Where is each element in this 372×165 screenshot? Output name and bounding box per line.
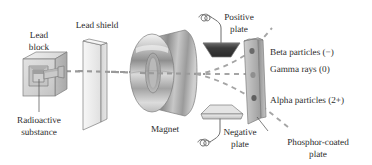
phosphor-plate-leader bbox=[257, 117, 268, 131]
positive-plate-label-line2: plate bbox=[230, 24, 248, 34]
alpha-impact-spot bbox=[251, 95, 256, 101]
negative-plate-label-line2: plate bbox=[231, 139, 249, 149]
lead-shield bbox=[83, 39, 107, 130]
lead-block-label-line1: Lead bbox=[30, 30, 49, 40]
negative-plate-coil bbox=[198, 139, 210, 146]
radioactivity-diagram: Lead block Lead shield Radioactive subst… bbox=[0, 0, 372, 165]
negative-plate-wire bbox=[198, 119, 220, 146]
positive-plate-body bbox=[203, 43, 240, 57]
lead-shield-label: Lead shield bbox=[76, 20, 119, 30]
lead-block-label-line2: block bbox=[29, 42, 50, 52]
phosphor-coated-plate bbox=[244, 38, 268, 131]
radioactive-label-line1: Radioactive bbox=[17, 115, 61, 125]
negative-plate-body bbox=[201, 114, 243, 119]
positive-plate-label-line1: Positive bbox=[224, 12, 254, 22]
gamma-impact-spot bbox=[250, 72, 255, 78]
positive-plate-coil bbox=[199, 14, 211, 21]
lead-shield-front-face bbox=[83, 41, 101, 130]
sample-pellet-shade bbox=[33, 70, 44, 74]
phosphor-plate-label-line2: plate bbox=[309, 149, 327, 159]
phosphor-plate-label-line1: Phosphor-coated bbox=[287, 137, 349, 147]
magnet-label: Magnet bbox=[151, 124, 180, 134]
positive-plate-wire bbox=[199, 14, 221, 43]
alpha-ray-path bbox=[196, 74, 250, 97]
beta-particles-label: Beta particles (−) bbox=[270, 47, 334, 57]
lead-block-cavity-shadow bbox=[29, 66, 48, 69]
lead-block bbox=[23, 52, 67, 112]
negative-plate-lead-wire bbox=[210, 119, 220, 142]
radioactive-label-line2: substance bbox=[21, 127, 57, 137]
positive-plate-lead-wire bbox=[211, 17, 221, 43]
negative-plate-top-face bbox=[201, 105, 243, 114]
collimation-aperture bbox=[58, 66, 64, 78]
negative-plate-label-line1: Negative bbox=[223, 127, 256, 137]
diagram-canvas: Lead block Lead shield Radioactive subst… bbox=[0, 0, 372, 165]
alpha-particles-label: Alpha particles (2+) bbox=[270, 95, 344, 105]
lead-shield-side-face bbox=[101, 43, 107, 122]
beta-impact-spot bbox=[249, 48, 254, 54]
gamma-rays-label: Gamma rays (0) bbox=[270, 64, 330, 74]
